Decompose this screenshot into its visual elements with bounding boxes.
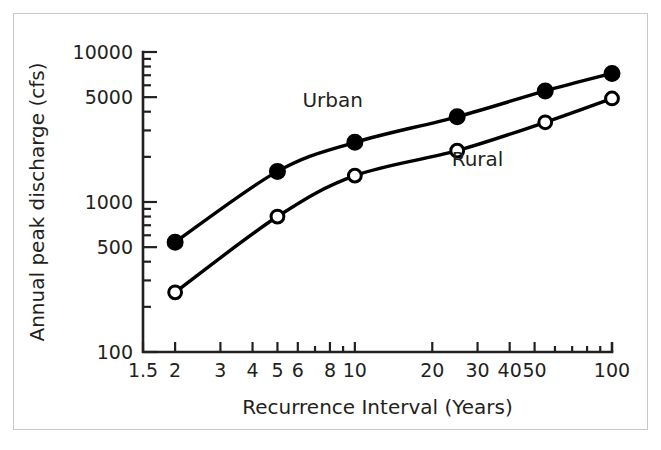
data-point-urban-0 [168,235,183,250]
x-tick-label: 100 [594,359,630,381]
y-axis-title: Annual peak discharge (cfs) [25,63,49,342]
data-point-rural-5 [606,92,619,105]
series-lines [175,73,612,292]
x-axis-title: Recurrence Interval (Years) [242,395,513,419]
data-point-urban-4 [538,83,553,98]
x-tick-label: 20 [420,359,444,381]
series-annotation-rural: Rural [452,147,504,171]
y-axis-tick-labels: 1005001000500010000 [73,41,133,363]
y-tick-label: 500 [97,236,133,258]
y-tick-label: 1000 [85,191,133,213]
data-point-urban-1 [270,164,285,179]
y-tick-label: 100 [97,341,133,363]
x-tick-label: 40 [498,359,522,381]
x-tick-label: 5 [271,359,283,381]
x-tick-label: 50 [522,359,546,381]
data-point-urban-5 [605,66,620,81]
figure-container: 1.52345681020304050100 10050010005000100… [0,0,661,450]
x-tick-label: 30 [465,359,489,381]
recurrence-interval-discharge-chart: 1.52345681020304050100 10050010005000100… [0,0,661,450]
data-point-urban-2 [347,135,362,150]
data-point-rural-2 [348,169,361,182]
series-markers [168,66,620,299]
y-axis-ticks [143,52,157,352]
x-tick-label: 10 [343,359,367,381]
y-tick-label: 10000 [73,41,133,63]
x-tick-label: 2 [169,359,181,381]
x-axis-ticks [143,342,612,352]
y-tick-label: 5000 [85,86,133,108]
data-point-rural-0 [169,286,182,299]
x-tick-label: 3 [214,359,226,381]
x-tick-label: 6 [292,359,304,381]
data-point-rural-1 [271,210,284,223]
x-axis-tick-labels: 1.52345681020304050100 [128,359,630,381]
series-annotation-urban: Urban [302,88,363,112]
x-tick-label: 8 [324,359,336,381]
data-point-rural-4 [539,116,552,129]
x-tick-label: 4 [246,359,258,381]
data-point-urban-3 [450,109,465,124]
